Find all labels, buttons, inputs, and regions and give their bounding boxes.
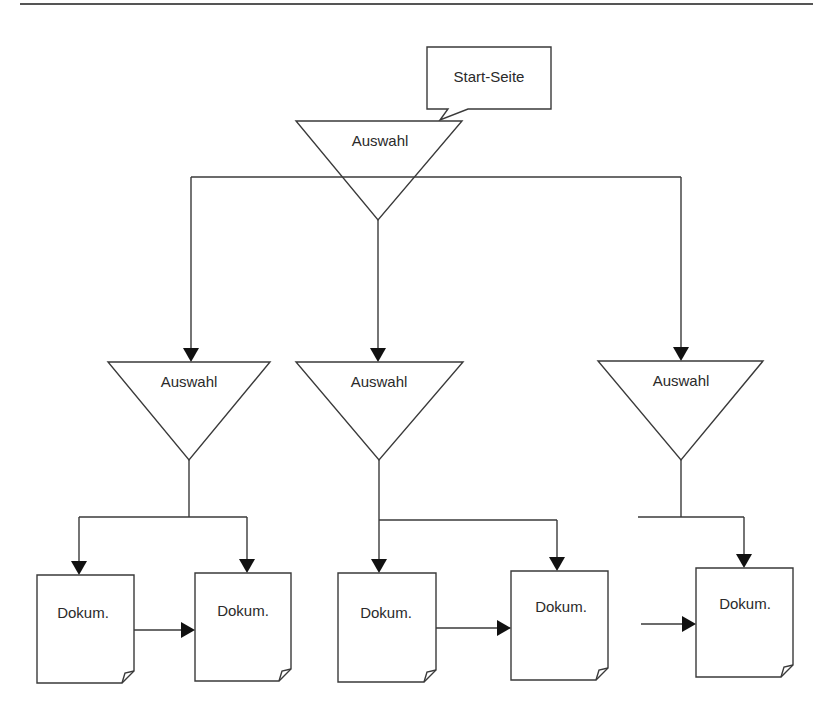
arrow-to-doc2 bbox=[239, 559, 255, 573]
doc4-label: Dokum. bbox=[535, 598, 587, 615]
arrow-doc1-to-doc2 bbox=[181, 622, 195, 638]
arrow-to-right-selection bbox=[673, 347, 689, 361]
doc1-label: Dokum. bbox=[57, 604, 109, 621]
document-node-1[interactable] bbox=[37, 575, 134, 683]
arrow-into-doc5 bbox=[682, 616, 696, 632]
arrow-to-doc4 bbox=[549, 557, 565, 571]
callout-label: Start-Seite bbox=[454, 68, 525, 85]
doc2-label: Dokum. bbox=[217, 602, 269, 619]
left-selection-label: Auswahl bbox=[161, 373, 218, 390]
arrow-to-doc5 bbox=[736, 554, 752, 568]
mid-selection-label: Auswahl bbox=[351, 373, 408, 390]
right-selection-label: Auswahl bbox=[653, 372, 710, 389]
doc3-label: Dokum. bbox=[360, 604, 412, 621]
arrow-doc3-to-doc4 bbox=[497, 620, 511, 636]
arrow-to-doc1 bbox=[71, 561, 87, 575]
arrow-to-left-selection bbox=[183, 348, 199, 362]
flowchart-canvas bbox=[0, 0, 831, 725]
root-selection-label: Auswahl bbox=[352, 132, 409, 149]
document-node-5[interactable] bbox=[696, 568, 793, 677]
arrow-to-mid-selection bbox=[370, 348, 386, 362]
document-node-2[interactable] bbox=[195, 573, 291, 681]
doc5-label: Dokum. bbox=[719, 595, 771, 612]
arrow-to-doc3 bbox=[371, 559, 387, 573]
document-node-3[interactable] bbox=[338, 573, 436, 682]
document-node-4[interactable] bbox=[511, 571, 608, 680]
